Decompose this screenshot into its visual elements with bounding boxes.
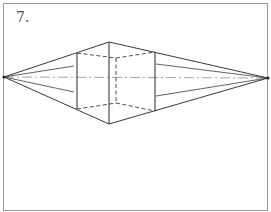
cube-hidden-edges (77, 52, 155, 111)
horizon-line (4, 77, 268, 78)
right-vanishing-point (266, 76, 269, 79)
perspective-diagram (0, 0, 271, 212)
cube-visible-edges (77, 42, 155, 124)
outer-perspective-lines (4, 42, 268, 124)
left-vanishing-point (2, 75, 5, 78)
figure-number-label: 7. (16, 9, 29, 25)
